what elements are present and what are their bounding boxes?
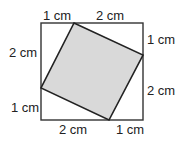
label-bottom-left: 2 cm: [59, 123, 87, 136]
label-bottom-right: 1 cm: [116, 123, 144, 136]
label-right-bottom: 2 cm: [147, 84, 175, 97]
label-top-right: 2 cm: [96, 9, 124, 22]
label-left-bottom: 1 cm: [11, 101, 39, 114]
label-left-top: 2 cm: [9, 46, 37, 59]
label-top-left: 1 cm: [43, 9, 71, 22]
label-right-top: 1 cm: [147, 33, 175, 46]
diagram-canvas: [0, 0, 183, 142]
inner-square: [41, 23, 143, 120]
